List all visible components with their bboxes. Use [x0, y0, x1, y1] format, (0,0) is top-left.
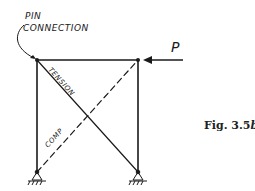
- load-label: P: [171, 39, 180, 55]
- annotation-pin: PIN: [25, 11, 41, 21]
- figure-caption: Fig. 3.5b: [204, 119, 255, 132]
- diagram-canvas: PIN CONNECTION P TENSION COMP: [0, 0, 255, 191]
- figure-caption-suffix: b: [250, 119, 255, 132]
- arrowhead-left-icon: [143, 56, 152, 64]
- tension-label: TENSION: [47, 66, 77, 98]
- load-arrow: [143, 56, 183, 64]
- annotation-connection: CONNECTION: [23, 23, 89, 33]
- figure-caption-prefix: Fig. 3.5: [204, 119, 250, 132]
- leader-arrowhead-icon: [30, 55, 36, 59]
- pin-node-top-right: [136, 58, 140, 62]
- compression-label: COMP: [44, 127, 65, 150]
- pin-support-right: [129, 170, 147, 185]
- pin-support-left: [28, 170, 46, 185]
